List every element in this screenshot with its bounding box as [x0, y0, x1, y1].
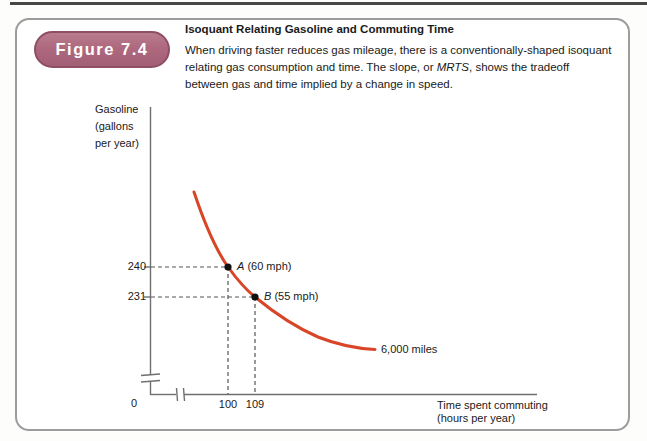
x-tick-label-109: 109 — [240, 398, 270, 411]
y-axis-break-mark-1 — [141, 374, 160, 376]
point-b-label: B (55 mph) — [264, 290, 318, 303]
point-b-dot — [251, 293, 258, 300]
point-a-label: A (60 mph) — [237, 260, 291, 273]
x-axis-title: Time spent commuting (hours per year) — [437, 399, 548, 425]
chart-canvas — [0, 0, 647, 441]
origin-label: 0 — [127, 397, 141, 410]
y-tick-label-240: 240 — [106, 260, 146, 273]
y-tick-label-231: 231 — [106, 290, 146, 303]
x-axis-break-mark-1 — [177, 388, 178, 401]
dashed-guides — [151, 267, 255, 394]
point-a-desc: (60 mph) — [244, 260, 291, 272]
axes — [141, 107, 537, 401]
y-axis-title: Gasoline (gallons per year) — [95, 101, 139, 152]
textbook-figure-page: Figure 7.4 Isoquant Relating Gasoline an… — [0, 0, 647, 441]
x-tick-label-100: 100 — [213, 398, 243, 411]
y-axis-break-mark-2 — [141, 381, 160, 383]
curve-label: 6,000 miles — [381, 343, 437, 356]
point-b-desc: (55 mph) — [271, 290, 318, 302]
x-axis-break-mark-2 — [184, 388, 185, 401]
point-a-dot — [224, 263, 231, 270]
